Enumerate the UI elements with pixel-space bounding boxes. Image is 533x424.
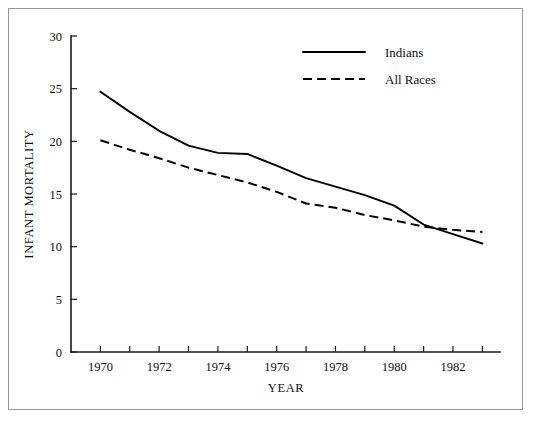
infant-mortality-line-chart: 051015202530 197019721974197619781980198… bbox=[0, 0, 533, 424]
y-tick-label: 0 bbox=[56, 346, 62, 360]
y-tick-label: 15 bbox=[50, 188, 63, 202]
y-tick-label: 30 bbox=[50, 30, 63, 44]
y-tick-label: 20 bbox=[50, 135, 63, 149]
y-axis-ticks bbox=[71, 36, 77, 352]
figure-root: 051015202530 197019721974197619781980198… bbox=[0, 0, 533, 424]
x-tick-label: 1982 bbox=[440, 360, 465, 374]
y-tick-label: 10 bbox=[50, 240, 63, 254]
y-axis-title: INFANT MORTALITY bbox=[22, 129, 36, 258]
legend-label-indians: Indians bbox=[385, 45, 423, 60]
data-series-group bbox=[100, 92, 482, 244]
x-tick-label: 1974 bbox=[205, 360, 231, 374]
chart-legend: IndiansAll Races bbox=[303, 45, 436, 87]
x-tick-label: 1970 bbox=[88, 360, 113, 374]
series-line-indians bbox=[100, 92, 482, 244]
x-tick-label: 1976 bbox=[264, 360, 289, 374]
y-axis-tick-labels: 051015202530 bbox=[50, 30, 63, 360]
legend-label-all-races: All Races bbox=[385, 72, 436, 87]
x-tick-label: 1978 bbox=[323, 360, 348, 374]
series-line-all-races bbox=[100, 140, 482, 232]
y-tick-label: 25 bbox=[50, 82, 63, 96]
x-tick-label: 1980 bbox=[382, 360, 407, 374]
x-tick-label: 1972 bbox=[147, 360, 172, 374]
y-tick-label: 5 bbox=[56, 293, 62, 307]
x-axis-title: YEAR bbox=[268, 381, 304, 395]
x-axis-ticks bbox=[100, 346, 482, 352]
x-axis-tick-labels: 1970197219741976197819801982 bbox=[88, 360, 466, 374]
